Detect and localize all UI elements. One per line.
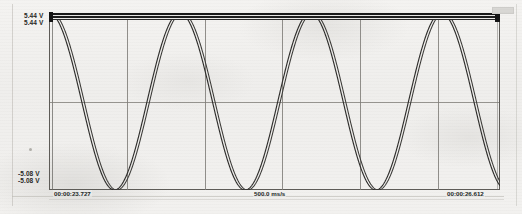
page-rule-right [516, 4, 517, 206]
y-axis-label-bottom-b: -5.08 V [18, 177, 40, 184]
trace-channel-a [49, 13, 500, 190]
y-axis-label-top-a: 5.44 V [24, 12, 43, 19]
x-axis-label-sweep-rate: 500.0 ms/s [253, 190, 286, 197]
waveform-traces [49, 13, 500, 190]
rail-cap-left [49, 12, 53, 22]
y-axis-label-bottom-a: -5.08 V [18, 170, 40, 177]
x-axis-label-end: 00:00:26.612 [446, 190, 485, 197]
page-rule-left [12, 4, 13, 206]
page-rule-bottom-secondary [49, 199, 504, 200]
scan-artifact [29, 148, 32, 151]
y-axis-label-top-b: 5.44 V [24, 19, 43, 26]
waveform-display[interactable]: 5.44 V 5.44 V -5.08 V -5.08 V 00:00:23.7… [0, 0, 522, 214]
clipped-rail-top [50, 13, 499, 20]
x-axis-label-start: 00:00:23.727 [53, 190, 92, 197]
trace-channel-b [49, 13, 500, 190]
range-indicator[interactable] [492, 7, 514, 14]
